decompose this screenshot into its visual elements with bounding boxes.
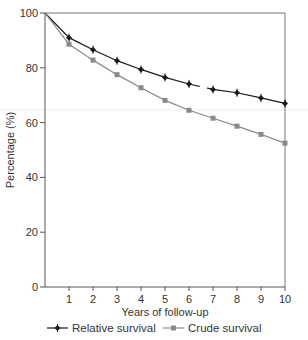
x-tick-label: 6 — [186, 293, 192, 305]
legend-item-crude-survival: Crude survival — [163, 322, 262, 334]
legend-item-relative-survival: Relative survival — [47, 322, 156, 334]
x-tick-label: 7 — [210, 293, 216, 305]
y-tick-label: 80 — [26, 62, 38, 74]
y-tick-label: 0 — [32, 281, 38, 293]
square-marker — [187, 108, 192, 113]
square-marker — [115, 72, 120, 77]
square-marker — [211, 116, 216, 121]
legend-label: Crude survival — [188, 322, 262, 334]
square-marker — [67, 42, 72, 47]
x-tick-label: 2 — [90, 293, 96, 305]
series-crude-survival — [45, 13, 288, 146]
x-axis-title: Years of follow-up — [121, 306, 208, 318]
x-tick-label: 8 — [234, 293, 240, 305]
legend-label: Relative survival — [72, 322, 156, 334]
x-tick-label: 3 — [114, 293, 120, 305]
x-tick-label: 10 — [279, 293, 291, 305]
square-marker — [171, 326, 176, 331]
plot-frame — [45, 13, 285, 287]
series-line — [45, 13, 285, 103]
y-axis-title: Percentage (%) — [4, 112, 16, 188]
x-axis: 12345678910 — [66, 287, 291, 305]
square-marker — [283, 141, 288, 146]
square-marker — [163, 98, 168, 103]
survival-chart: 020406080100 12345678910 Years of follow… — [0, 0, 308, 340]
line-gap — [200, 84, 207, 90]
y-tick-label: 40 — [26, 171, 38, 183]
y-tick-label: 20 — [26, 226, 38, 238]
series-relative-survival — [45, 13, 288, 107]
x-tick-label: 5 — [162, 293, 168, 305]
x-tick-label: 1 — [66, 293, 72, 305]
square-marker — [139, 85, 144, 90]
square-marker — [235, 124, 240, 129]
square-marker — [259, 132, 264, 137]
square-marker — [91, 58, 96, 63]
y-axis: 020406080100 — [20, 7, 45, 293]
x-tick-label: 9 — [258, 293, 264, 305]
y-tick-label: 100 — [20, 7, 38, 19]
y-tick-label: 60 — [26, 117, 38, 129]
legend: Relative survivalCrude survival — [47, 322, 262, 334]
series-group — [45, 13, 288, 146]
x-tick-label: 4 — [138, 293, 144, 305]
